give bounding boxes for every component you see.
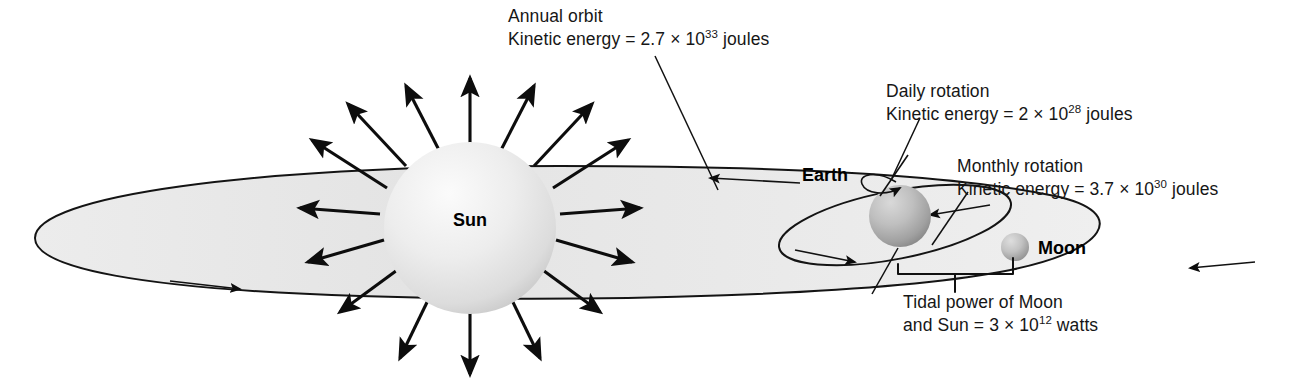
daily-rotation-line2-suffix: joules [1081,104,1132,124]
annual-orbit-line2-prefix: Kinetic energy = 2.7 × 10 [508,29,705,49]
monthly-rotation-line2: Kinetic energy = 3.7 × 1030 joules [957,178,1219,199]
monthly-rotation-line2-suffix: joules [1167,179,1218,199]
earth-label: Earth [802,165,848,185]
sun-ray-nnw [406,86,440,152]
daily-rotation-exponent: 28 [1068,103,1081,115]
annual-orbit-direction-arrow-far-right [1190,262,1255,268]
monthly-rotation-exponent: 30 [1154,178,1167,190]
tidal-power-line2-suffix: watts [1052,315,1098,335]
daily-rotation-line1: Daily rotation [886,81,990,101]
sun-earth-moon-diagram: Sun Earth Moon [0,0,1300,392]
moon-label: Moon [1038,238,1086,258]
annual-orbit-line1: Annual orbit [508,6,603,26]
diagram-canvas: Sun Earth Moon [0,0,1300,392]
annual-orbit-exponent: 33 [705,28,718,40]
daily-rotation-line2: Kinetic energy = 2 × 1028 joules [886,103,1133,124]
tidal-power-line2: and Sun = 3 × 1012 watts [903,314,1098,335]
monthly-rotation-line2-prefix: Kinetic energy = 3.7 × 10 [957,179,1154,199]
leader-daily-rotation [892,118,920,178]
sun-ray-ne [534,104,592,166]
annotation-tidal-power: Tidal power of Moon and Sun = 3 × 1012 w… [903,292,1098,335]
daily-rotation-line2-prefix: Kinetic energy = 2 × 10 [886,104,1068,124]
annual-orbit-line2-suffix: joules [718,29,769,49]
moon-body: Moon [1001,233,1086,261]
earth-disc [869,185,931,247]
sun-label: Sun [453,210,487,230]
annotation-daily-rotation: Daily rotation Kinetic energy = 2 × 1028… [886,81,1133,124]
sun-ray-nw [348,104,406,166]
tidal-power-line1: Tidal power of Moon [903,292,1063,312]
annual-orbit-line2: Kinetic energy = 2.7 × 1033 joules [508,28,770,49]
tidal-power-line2-prefix: and Sun = 3 × 10 [903,315,1039,335]
annotation-annual-orbit: Annual orbit Kinetic energy = 2.7 × 1033… [508,6,770,49]
sun-body: Sun [384,142,556,314]
annotation-monthly-rotation: Monthly rotation Kinetic energy = 3.7 × … [957,156,1219,199]
moon-disc [1001,233,1029,261]
tidal-power-exponent: 12 [1039,314,1052,326]
monthly-rotation-line1: Monthly rotation [957,156,1083,176]
sun-ray-nne [500,86,534,152]
